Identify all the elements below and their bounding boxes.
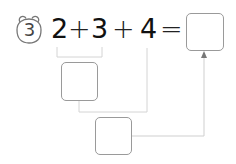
- step-box-1[interactable]: [61, 62, 98, 101]
- answer-box[interactable]: [186, 13, 224, 51]
- term-1: 2: [51, 14, 68, 44]
- term-2: 3: [91, 14, 108, 44]
- problem-number: 3: [16, 15, 43, 43]
- term-3: 4: [140, 14, 157, 44]
- plus-operator-2: +: [112, 14, 135, 44]
- step-box-2[interactable]: [95, 117, 132, 155]
- equals-sign: =: [160, 14, 183, 44]
- plus-operator-1: +: [68, 14, 91, 44]
